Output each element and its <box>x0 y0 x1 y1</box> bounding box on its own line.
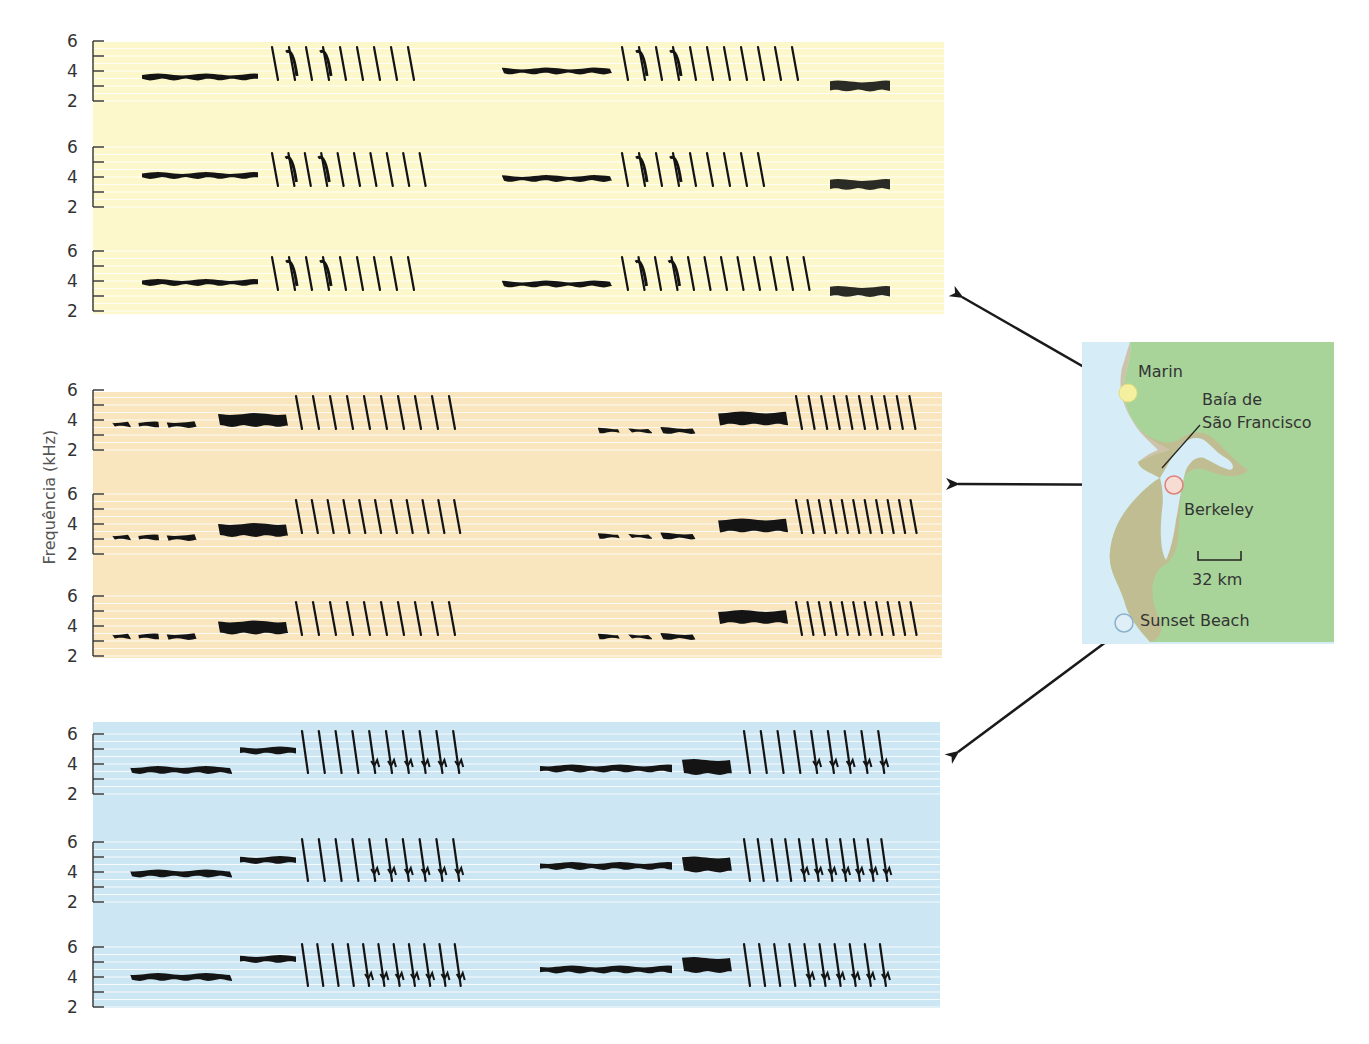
bay-label-line2: São Francisco <box>1202 413 1312 432</box>
svg-text:4: 4 <box>67 967 78 987</box>
svg-text:2: 2 <box>67 784 78 804</box>
svg-text:2: 2 <box>67 91 78 111</box>
arrow-sunset-beach <box>958 630 1122 752</box>
marin-label: Marin <box>1138 362 1183 381</box>
marin-marker[interactable] <box>1119 384 1137 402</box>
svg-text:6: 6 <box>67 137 78 157</box>
svg-text:2: 2 <box>67 646 78 666</box>
sunset-beach-label: Sunset Beach <box>1140 611 1250 630</box>
svg-text:2: 2 <box>67 544 78 564</box>
svg-text:4: 4 <box>67 862 78 882</box>
svg-text:2: 2 <box>67 197 78 217</box>
svg-text:4: 4 <box>67 61 78 81</box>
svg-text:4: 4 <box>67 616 78 636</box>
sunset-beach-marker[interactable] <box>1115 614 1133 632</box>
svg-text:6: 6 <box>67 380 78 400</box>
berkeley-label: Berkeley <box>1184 500 1254 519</box>
scale-label: 32 km <box>1192 570 1242 589</box>
svg-text:4: 4 <box>67 754 78 774</box>
svg-text:6: 6 <box>67 724 78 744</box>
svg-text:4: 4 <box>67 167 78 187</box>
berkeley-marker[interactable] <box>1165 476 1183 494</box>
svg-text:2: 2 <box>67 997 78 1017</box>
svg-text:6: 6 <box>67 586 78 606</box>
svg-text:6: 6 <box>67 832 78 852</box>
svg-text:6: 6 <box>67 937 78 957</box>
svg-text:6: 6 <box>67 31 78 51</box>
bay-area-map: Marin Baía de São Francisco Berkeley 32 … <box>1082 342 1334 644</box>
y-axis-label: Frequência (kHz) <box>40 455 59 565</box>
svg-text:4: 4 <box>67 271 78 291</box>
svg-text:6: 6 <box>67 484 78 504</box>
svg-text:6: 6 <box>67 241 78 261</box>
svg-text:2: 2 <box>67 301 78 321</box>
svg-text:4: 4 <box>67 514 78 534</box>
svg-text:4: 4 <box>67 410 78 430</box>
spectrogram-figure: 642642642642642642642642642 Marin Baía d… <box>0 0 1369 1044</box>
bay-label-line1: Baía de <box>1202 390 1262 409</box>
svg-text:2: 2 <box>67 440 78 460</box>
svg-text:2: 2 <box>67 892 78 912</box>
